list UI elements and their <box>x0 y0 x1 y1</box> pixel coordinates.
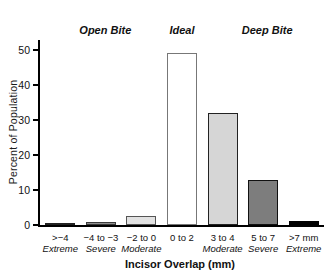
x-tick-label: 0 to 2 <box>159 232 205 243</box>
y-tick-label: 0 <box>6 219 30 231</box>
bar-−4-to-−3 <box>86 222 116 225</box>
y-tick-label: 50 <box>6 44 30 56</box>
x-tick-range: −2 to 0 <box>118 232 164 243</box>
x-tick-severity: Moderate <box>200 243 246 254</box>
y-tick-mark <box>33 224 38 226</box>
x-tick-range: 5 to 7 <box>240 232 286 243</box>
x-tick-severity: Severe <box>240 243 286 254</box>
x-tick-severity: Extreme <box>37 243 83 254</box>
plot-area: 01020304050>−4Extreme−4 to −3Severe−2 to… <box>38 40 324 227</box>
x-tick-label: >−4Extreme <box>37 232 83 254</box>
x-axis-title: Incisor Overlap (mm) <box>38 258 322 270</box>
x-tick-range: −4 to −3 <box>78 232 124 243</box>
group-annotation-deep-bite: Deep Bite <box>242 24 293 36</box>
x-tick-range: >7 mm <box>281 232 327 243</box>
x-tick-label: 5 to 7Severe <box>240 232 286 254</box>
x-tick-severity: Severe <box>78 243 124 254</box>
x-tick-severity: Moderate <box>118 243 164 254</box>
bar-chart-figure: Percent of Population 01020304050>−4Extr… <box>0 0 331 276</box>
group-annotation-ideal: Ideal <box>169 24 194 36</box>
group-annotation-open-bite: Open Bite <box>79 24 131 36</box>
x-tick-range: 0 to 2 <box>159 232 205 243</box>
x-tick-range: >−4 <box>37 232 83 243</box>
y-tick-mark <box>33 84 38 86</box>
y-tick-mark <box>33 154 38 156</box>
bar-0-to-2 <box>167 53 197 225</box>
bar-3-to-4 <box>208 113 238 225</box>
y-tick-label: 20 <box>6 149 30 161</box>
bar-5-to-7 <box>248 180 278 225</box>
bar->7-mm <box>289 221 319 225</box>
x-tick-severity: Extreme <box>281 243 327 254</box>
x-tick-label: −2 to 0Moderate <box>118 232 164 254</box>
x-tick-label: 3 to 4Moderate <box>200 232 246 254</box>
x-tick-range: 3 to 4 <box>200 232 246 243</box>
x-tick-label: −4 to −3Severe <box>78 232 124 254</box>
y-tick-mark <box>33 49 38 51</box>
y-tick-label: 40 <box>6 79 30 91</box>
y-tick-label: 30 <box>6 114 30 126</box>
y-tick-label: 10 <box>6 184 30 196</box>
x-tick-label: >7 mmExtreme <box>281 232 327 254</box>
y-tick-mark <box>33 189 38 191</box>
y-tick-mark <box>33 119 38 121</box>
bar->−4 <box>45 223 75 225</box>
bar-−2-to-0 <box>126 216 156 225</box>
